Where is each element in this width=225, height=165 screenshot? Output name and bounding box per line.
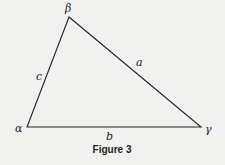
triangle-figure: β α γ c a b Figure 3 bbox=[0, 0, 225, 165]
side-label-a: a bbox=[136, 56, 143, 69]
vertex-label-gamma: γ bbox=[205, 123, 212, 136]
triangle bbox=[27, 17, 201, 127]
side-label-b: b bbox=[106, 130, 113, 143]
figure-caption: Figure 3 bbox=[93, 144, 132, 155]
vertex-label-beta: β bbox=[64, 2, 71, 15]
side-label-c: c bbox=[36, 70, 42, 83]
vertex-label-alpha: α bbox=[15, 122, 23, 135]
